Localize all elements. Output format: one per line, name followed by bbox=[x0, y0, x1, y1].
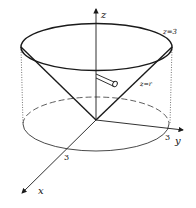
x-tick-label: 3 bbox=[64, 153, 69, 162]
plane-label: z=3 bbox=[162, 28, 178, 36]
x-axis-label: x bbox=[38, 185, 44, 196]
x-axis bbox=[22, 120, 96, 193]
y-axis bbox=[96, 120, 183, 130]
top-circle-z3 bbox=[21, 24, 172, 71]
cylinder-side-left bbox=[21, 47, 23, 124]
y-tick-label: 3 bbox=[165, 133, 170, 142]
cone-label: z=r bbox=[139, 80, 153, 88]
z-axis-label: z bbox=[100, 9, 107, 20]
cone-edge-left bbox=[21, 47, 96, 120]
y-axis-label: y bbox=[174, 135, 181, 146]
volume-element bbox=[96, 74, 118, 87]
cone-cylinder-diagram: z y x 3 3 z=3 z=r bbox=[0, 0, 196, 208]
cylinder-side-right bbox=[170, 47, 172, 124]
